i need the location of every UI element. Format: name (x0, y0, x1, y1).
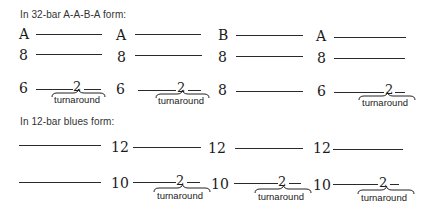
bar-line (334, 58, 405, 59)
bar-line (133, 182, 176, 183)
bar-count: 8 (218, 83, 227, 97)
bar-line (19, 145, 101, 146)
turnaround-label: turnaround (158, 95, 204, 106)
section-label-a1: A (19, 27, 29, 41)
bar-count: 8 (19, 48, 28, 62)
bar-count: 10 (313, 178, 331, 192)
turnaround-label: turnaround (157, 190, 203, 201)
bar-count: 10 (111, 176, 129, 190)
bar-line (236, 91, 303, 92)
bar-count: 12 (313, 141, 331, 155)
section-label-b: B (218, 28, 228, 42)
turnaround-label: turnaround (361, 192, 407, 203)
bar-line (236, 35, 303, 36)
bar-line (390, 184, 399, 185)
bar-count: 6 (317, 84, 326, 98)
bar-line (236, 56, 303, 57)
bar-count: 10 (211, 177, 229, 191)
bar-line (187, 182, 200, 183)
bar-line (135, 55, 202, 56)
bar-line (235, 148, 303, 149)
bar-line (234, 183, 278, 184)
bar-line (289, 183, 301, 184)
bar-count: 12 (111, 140, 129, 154)
bar-line (334, 37, 406, 38)
bar-line (135, 34, 201, 35)
turnaround-label: turnaround (54, 94, 100, 105)
bar-count: 8 (317, 51, 326, 65)
bar-line (19, 182, 101, 183)
section-label-a2: A (116, 28, 126, 42)
bar-line (36, 54, 102, 55)
bar-count: 8 (117, 50, 126, 64)
bar-line (36, 34, 102, 35)
blues-heading: In 12-bar blues form: (20, 116, 114, 127)
aaba-heading: In 32-bar A-A-B-A form: (20, 9, 126, 20)
bar-count: 8 (218, 50, 227, 64)
bar-line (333, 184, 378, 185)
bar-line (133, 147, 201, 148)
bar-count: 12 (208, 141, 226, 155)
turnaround-label: turnaround (258, 191, 304, 202)
bar-count: 6 (19, 81, 28, 95)
turnaround-label: turnaround (362, 97, 408, 108)
bar-line (333, 149, 403, 150)
bar-count: 6 (116, 82, 125, 96)
section-label-a3: A (316, 29, 326, 43)
